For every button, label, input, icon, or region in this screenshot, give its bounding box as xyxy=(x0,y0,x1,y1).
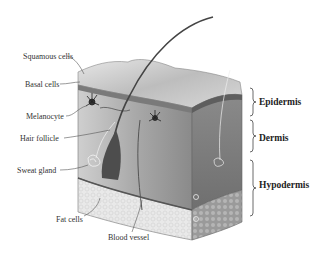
label-sweat-gland: Sweat gland xyxy=(17,166,56,175)
front-face xyxy=(78,85,192,240)
label-hair-follicle: Hair follicle xyxy=(20,134,59,143)
label-hypodermis: Hypodermis xyxy=(259,180,309,191)
label-squamous-cells: Squamous cells xyxy=(23,52,73,61)
label-basal-cells: Basal cells xyxy=(25,80,59,89)
label-dermis: Dermis xyxy=(259,133,289,144)
skin-diagram-illustration xyxy=(0,0,326,257)
label-melanocyte: Melanocyte xyxy=(26,112,64,121)
label-blood-vessel: Blood vessel xyxy=(108,233,149,242)
label-fat-cells: Fat cells xyxy=(56,215,83,224)
layer-braces xyxy=(250,88,256,216)
label-epidermis: Epidermis xyxy=(259,97,301,108)
